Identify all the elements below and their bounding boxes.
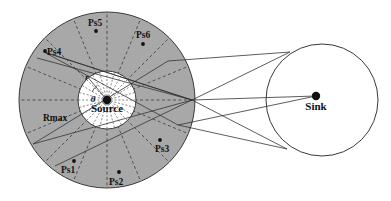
relay-link-to-sink <box>178 96 316 125</box>
sink-label: Sink <box>305 100 327 112</box>
figure-canvas: Source Sink Rmax r θ Ps1 Ps2 Ps3 Ps4 Ps5… <box>0 0 391 201</box>
relay-link-to-sink <box>168 52 290 61</box>
relay-link-to-sink <box>192 52 290 100</box>
sensor-dot-ps3[interactable] <box>158 138 162 142</box>
sensor-label-ps1: Ps1 <box>61 165 76 175</box>
source-label: Source <box>91 102 123 114</box>
relay-link-to-sink <box>178 125 287 149</box>
sensor-label-ps3: Ps3 <box>155 144 170 154</box>
relay-link-to-sink <box>192 100 287 149</box>
sensor-dot-ps2[interactable] <box>117 170 121 174</box>
network-topology-diagram: Source Sink Rmax r θ Ps1 Ps2 Ps3 Ps4 Ps5… <box>0 0 391 201</box>
sensor-label-ps5: Ps5 <box>88 18 103 28</box>
rmax-label: Rmax <box>43 113 68 123</box>
sensor-label-ps6: Ps6 <box>136 30 151 40</box>
sensor-label-ps2: Ps2 <box>109 177 124 187</box>
radius-r-label: r <box>85 72 89 82</box>
theta-label: θ <box>91 94 96 104</box>
sensor-dot-ps5[interactable] <box>94 29 98 33</box>
relay-link-to-sink <box>192 96 316 100</box>
sensor-dot-ps1[interactable] <box>72 159 76 163</box>
sensor-label-ps4: Ps4 <box>47 47 62 57</box>
sink-node-dot[interactable] <box>312 92 320 100</box>
sensor-dot-ps6[interactable] <box>141 42 145 46</box>
